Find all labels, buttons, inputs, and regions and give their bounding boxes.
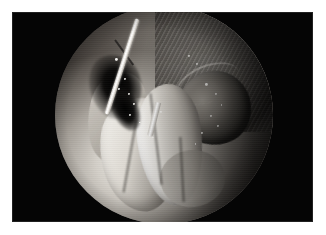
endoscope-field-of-view: [55, 12, 273, 222]
page-root: [0, 0, 326, 235]
specular-highlight: [217, 125, 219, 127]
specular-highlight: [160, 111, 162, 113]
specular-highlight: [139, 122, 141, 124]
specular-highlight: [118, 88, 120, 90]
figure-plate: [12, 12, 313, 222]
specular-highlight: [205, 83, 208, 86]
specular-highlight: [115, 58, 118, 61]
specular-highlight: [196, 63, 198, 65]
specular-highlight: [129, 114, 131, 116]
